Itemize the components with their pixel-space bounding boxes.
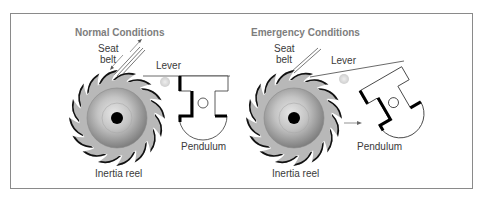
inertia-reel-icon	[245, 69, 343, 167]
pendulum-icon	[179, 76, 228, 140]
pendulum-label: Pendulum	[181, 141, 226, 152]
panel-title: Emergency Conditions	[251, 27, 360, 38]
panel-emergency-conditions: Emergency Conditions Seat belt	[245, 27, 434, 179]
pendulum-icon	[359, 67, 433, 147]
pendulum-label: Pendulum	[357, 141, 402, 152]
axle-icon	[288, 112, 300, 124]
motion-arrow-icon	[344, 121, 362, 125]
panel-title: Normal Conditions	[75, 27, 165, 38]
seat-belt-label-line2: belt	[276, 54, 292, 65]
seat-belt-icon	[291, 48, 321, 73]
inertia-reel-label: Inertia reel	[95, 168, 142, 179]
inertia-reel-icon	[68, 69, 166, 167]
seatbelt-inertia-reel-diagram: Normal Conditions Seat belt	[0, 0, 485, 202]
seat-belt-label-line1: Seat	[98, 43, 119, 54]
axle-icon	[111, 112, 123, 124]
seat-belt-label-line2: belt	[100, 54, 116, 65]
lever-label: Lever	[156, 60, 182, 71]
lever-label: Lever	[331, 55, 357, 66]
seat-belt-label-line1: Seat	[274, 43, 295, 54]
lever-pivot-icon	[339, 74, 349, 84]
panel-normal-conditions: Normal Conditions Seat belt	[68, 27, 230, 179]
inertia-reel-label: Inertia reel	[272, 168, 319, 179]
lever-pivot-icon	[160, 77, 170, 87]
